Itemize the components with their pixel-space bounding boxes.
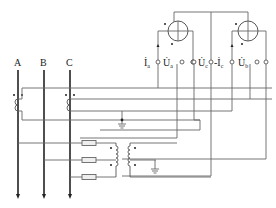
ct-phase-a [13,88,272,120]
ct-ground [118,111,126,128]
phase-buses [16,70,72,199]
terminal-uc [209,60,213,64]
polarity-dot-icon [134,164,136,166]
label-uc: U̇c [198,57,208,69]
wattmeter-1 [157,12,249,60]
polarity-dot-icon [13,94,15,96]
label-ub: U̇b [238,57,248,69]
phase-c-arrow-icon [68,194,72,199]
voltage-transformers [110,143,211,177]
polarity-dot-icon [65,94,67,96]
polarity-dot-icon [134,147,136,149]
vt-primary-coil-icon [116,143,118,177]
terminal-ia [156,60,160,64]
vt-fuses [18,141,116,180]
phase-a-arrow-icon [16,194,20,199]
current-arrow-icon [231,44,234,47]
ct-phase-c [65,94,272,111]
wattmeter-2 [211,12,266,60]
polarity-dot-icon [164,23,166,25]
fuse-c-icon [82,175,96,180]
label-ic: -İc [214,57,224,69]
terminal-ua-pot [180,60,184,64]
current-arrow-icon [157,44,160,47]
polarity-dot-icon [110,147,112,149]
phase-b-label: B [40,57,47,68]
phase-c-label: C [66,57,73,68]
ct-a-lead-top [18,88,272,99]
terminal-ub [255,60,259,64]
fuse-b-icon [82,158,96,163]
polarity-dot-icon [73,94,75,96]
polarity-dot-icon [171,43,173,45]
terminal-blank-2 [264,60,268,64]
ct-a-lead-bottom [18,111,200,120]
polarity-dot-icon [241,43,243,45]
vt-secondary-coil-icon [128,143,130,177]
wiring-diagram: A B C [0,0,276,208]
polarity-dot-icon [110,164,112,166]
phase-a-label: A [14,57,22,68]
label-ua: U̇a [163,57,173,69]
terminal-ic [230,60,234,64]
polarity-dot-icon [235,23,237,25]
phase-b-arrow-icon [42,194,46,199]
vt-ground [151,160,159,173]
terminal-blank-1 [192,60,196,64]
fuse-a-icon [82,141,96,146]
label-ia: İa [144,57,150,69]
